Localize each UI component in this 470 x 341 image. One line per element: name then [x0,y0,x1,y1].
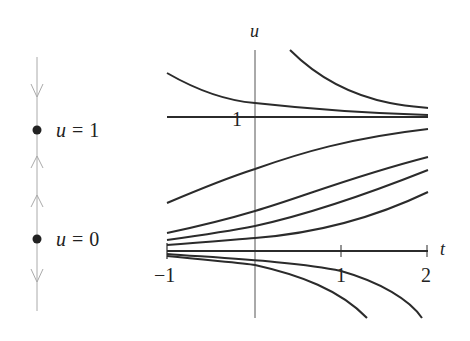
solution-curve [167,254,422,318]
solution-plot: u −1 1 2 t 1 [154,21,446,318]
equilibrium-point-icon [33,126,42,135]
solution-curve [167,73,428,115]
tick-label-minus1: −1 [154,264,175,286]
solution-curve [167,170,428,240]
solution-curve [167,129,428,203]
solution-curve [167,192,428,245]
t-axis-label: t [440,239,446,259]
u-axis-label: u [250,21,259,41]
equilibrium-label-u0: u=0 [56,228,99,250]
equilibrium-label-u1: u=1 [56,119,99,141]
equilibrium-point-icon [33,235,42,244]
solution-curve [290,50,428,108]
phase-line: u=1 u=0 [31,57,99,311]
tick-label-u1: 1 [232,108,242,130]
tick-label-2: 2 [421,264,431,286]
diagram-canvas: u=1 u=0 u −1 1 2 t 1 [0,0,470,341]
tick-label-1: 1 [336,264,346,286]
solution-curve [167,157,428,233]
